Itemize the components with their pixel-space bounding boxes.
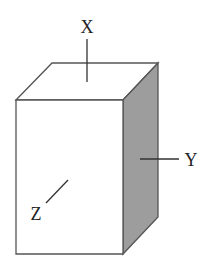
x-label: X xyxy=(81,17,94,37)
prism-diagram: X Y Z xyxy=(0,0,209,273)
z-label: Z xyxy=(31,204,42,224)
front-face xyxy=(16,100,123,254)
y-label: Y xyxy=(185,150,198,170)
